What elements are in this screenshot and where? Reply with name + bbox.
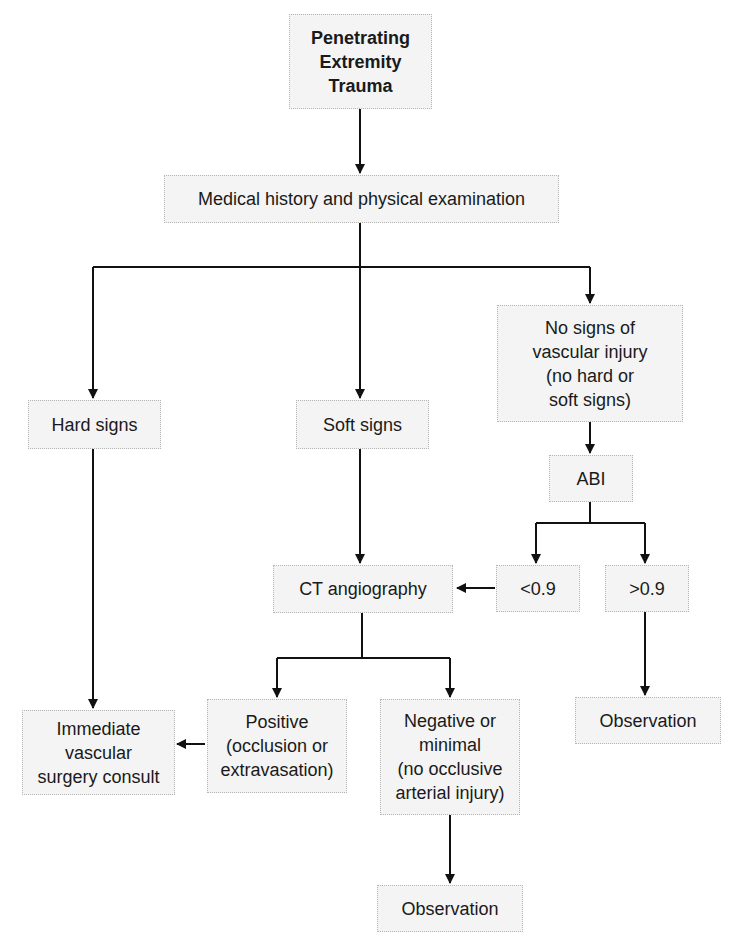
- node-text: (no hard or: [532, 364, 647, 388]
- node-text: extravasation): [220, 758, 333, 782]
- connector-lines: [0, 0, 746, 950]
- node-text: Hard signs: [51, 413, 137, 437]
- node-text: surgery consult: [37, 765, 159, 789]
- node-text: soft signs): [532, 388, 647, 412]
- node-text: (no occlusive: [395, 757, 504, 781]
- node-text: Trauma: [311, 74, 410, 98]
- node-abi-greater-than: >0.9: [605, 565, 689, 612]
- node-text: Penetrating: [311, 26, 410, 50]
- node-hard-signs: Hard signs: [28, 400, 161, 449]
- node-text: minimal: [395, 733, 504, 757]
- node-text: vascular: [37, 741, 159, 765]
- node-no-signs: No signs of vascular injury (no hard or …: [497, 305, 683, 422]
- node-positive: Positive (occlusion or extravasation): [207, 699, 347, 793]
- node-immediate-consult: Immediate vascular surgery consult: [22, 710, 175, 795]
- node-abi: ABI: [549, 455, 633, 502]
- node-observation-bottom: Observation: [377, 885, 523, 932]
- node-text: CT angiography: [299, 577, 427, 601]
- node-text: Negative or: [395, 709, 504, 733]
- node-medical-history: Medical history and physical examination: [164, 175, 559, 223]
- node-text: Soft signs: [323, 413, 402, 437]
- node-text: vascular injury: [532, 340, 647, 364]
- node-soft-signs: Soft signs: [296, 400, 429, 449]
- node-text: Immediate: [37, 717, 159, 741]
- node-text: Observation: [401, 897, 498, 921]
- node-text: Extremity: [311, 50, 410, 74]
- node-text: Medical history and physical examination: [198, 187, 525, 211]
- node-observation-right: Observation: [575, 697, 721, 744]
- node-ct-angiography: CT angiography: [273, 565, 453, 613]
- node-text: <0.9: [520, 577, 556, 601]
- node-negative: Negative or minimal (no occlusive arteri…: [380, 699, 520, 815]
- node-penetrating-extremity-trauma: Penetrating Extremity Trauma: [289, 14, 432, 109]
- node-text: Observation: [599, 709, 696, 733]
- node-abi-less-than: <0.9: [496, 565, 580, 612]
- node-text: No signs of: [532, 316, 647, 340]
- node-text: ABI: [576, 467, 605, 491]
- node-text: >0.9: [629, 577, 665, 601]
- node-text: Positive: [220, 710, 333, 734]
- node-text: (occlusion or: [220, 734, 333, 758]
- node-text: arterial injury): [395, 781, 504, 805]
